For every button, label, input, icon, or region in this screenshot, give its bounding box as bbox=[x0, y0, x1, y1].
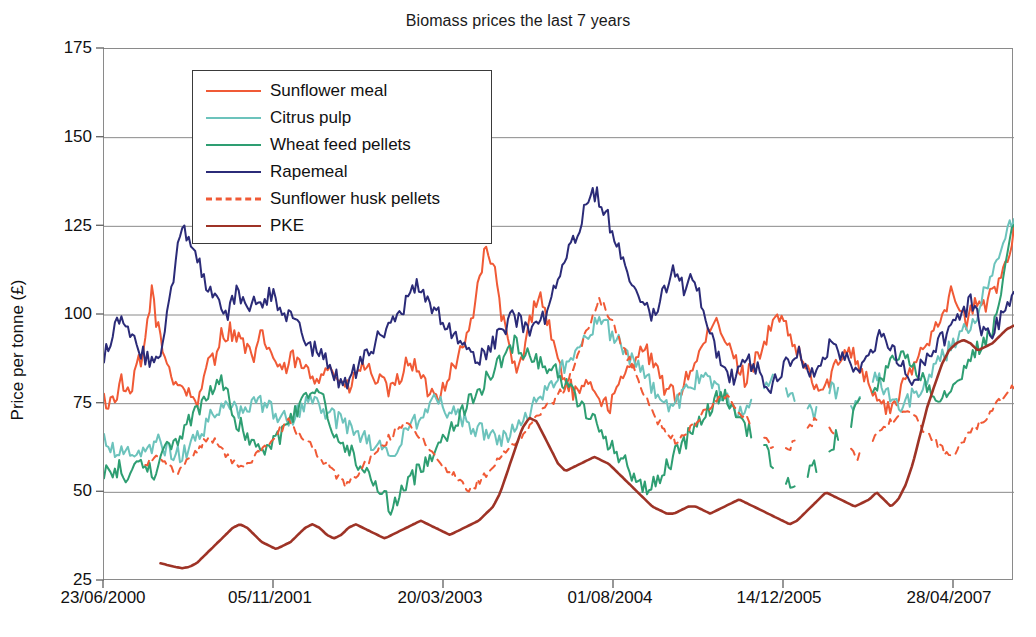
y-tick-label: 50 bbox=[30, 481, 92, 501]
x-tick-label: 28/04/2007 bbox=[864, 588, 1034, 608]
y-tick-label: 25 bbox=[30, 570, 92, 590]
y-tick-label: 100 bbox=[30, 304, 92, 324]
x-tick-label: 14/12/2005 bbox=[694, 588, 864, 608]
y-axis-ticks bbox=[88, 40, 110, 592]
legend-item[interactable]: PKE bbox=[193, 212, 491, 239]
legend-item[interactable]: Rapemeal bbox=[193, 158, 491, 185]
y-axis-title: Price per tonne (£) bbox=[8, 200, 28, 500]
chart-page: Biomass prices the last 7 years Price pe… bbox=[0, 0, 1036, 637]
legend-label: Rapemeal bbox=[261, 162, 348, 182]
x-axis-ticks bbox=[95, 575, 1025, 591]
legend-label: Citrus pulp bbox=[261, 108, 351, 128]
x-tick-label: 05/11/2001 bbox=[185, 588, 355, 608]
x-tick-label: 01/08/2004 bbox=[525, 588, 695, 608]
y-tick-label: 150 bbox=[30, 127, 92, 147]
legend-item[interactable]: Citrus pulp bbox=[193, 104, 491, 131]
legend-swatch-citrus-pulp bbox=[206, 111, 261, 125]
x-tick-label: 20/03/2003 bbox=[355, 588, 525, 608]
legend-swatch-wheat-feed-pellets bbox=[206, 138, 261, 152]
legend-item[interactable]: Sunflower meal bbox=[193, 77, 491, 104]
legend-swatch-pke bbox=[206, 219, 261, 233]
legend-label: Sunflower husk pellets bbox=[261, 189, 440, 209]
series-lines bbox=[104, 187, 1014, 568]
legend-label: Sunflower meal bbox=[261, 81, 387, 101]
y-tick-label: 125 bbox=[30, 216, 92, 236]
bottom-caption bbox=[0, 626, 1036, 637]
chart-legend: Sunflower meal Citrus pulp Wheat feed pe… bbox=[192, 70, 492, 244]
legend-item[interactable]: Sunflower husk pellets bbox=[193, 185, 491, 212]
legend-swatch-sunflower-meal bbox=[206, 84, 261, 98]
legend-label: PKE bbox=[261, 216, 304, 236]
y-tick-label: 175 bbox=[30, 38, 92, 58]
legend-label: Wheat feed pellets bbox=[261, 135, 411, 155]
chart-title: Biomass prices the last 7 years bbox=[0, 12, 1036, 30]
legend-swatch-sunflower-husk-pellets bbox=[206, 192, 261, 206]
y-tick-label: 75 bbox=[30, 393, 92, 413]
legend-swatch-rapemeal bbox=[206, 165, 261, 179]
legend-item[interactable]: Wheat feed pellets bbox=[193, 131, 491, 158]
